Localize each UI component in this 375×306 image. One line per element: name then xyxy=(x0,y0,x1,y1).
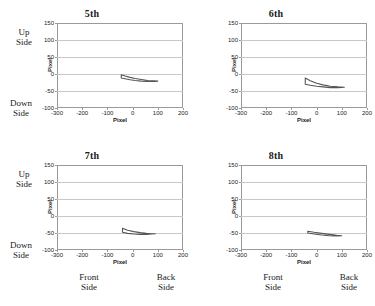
y-tick-label: -50 xyxy=(229,230,238,236)
chart-title-6th: 6th xyxy=(184,8,368,19)
x-axis-title-7th: Pixel xyxy=(57,259,183,265)
y-tick-label: 50 xyxy=(231,196,238,202)
y-tick-label: 100 xyxy=(228,37,238,43)
x-tick-mark xyxy=(57,250,58,252)
front-side-line1: Front xyxy=(79,272,99,282)
x-tick-label: -200 xyxy=(76,252,88,258)
data-curve xyxy=(241,23,367,108)
front-side-line2: Side xyxy=(81,282,97,292)
y-tick-label: 100 xyxy=(228,179,238,185)
down-side-line2: Side xyxy=(13,250,29,260)
y-tick-label: 50 xyxy=(47,196,54,202)
chart-title-8th: 8th xyxy=(184,150,368,161)
up-side-label: Up Side xyxy=(4,27,44,47)
x-tick-mark xyxy=(342,108,343,110)
x-tick-mark xyxy=(266,108,267,110)
y-tick-label: 150 xyxy=(228,20,238,26)
x-tick-label: -100 xyxy=(101,110,113,116)
x-tick-label: -200 xyxy=(260,252,272,258)
x-tick-label: 200 xyxy=(362,110,372,116)
plot-area-7th: Pixel Pixel -100-50050100150-300-200-100… xyxy=(57,165,183,250)
x-tick-mark xyxy=(107,250,108,252)
y-tick-label: 150 xyxy=(228,162,238,168)
x-tick-mark xyxy=(82,250,83,252)
x-tick-mark xyxy=(291,250,292,252)
y-tick-label: 0 xyxy=(235,71,238,77)
x-tick-mark xyxy=(241,108,242,110)
up-side-line1: Up xyxy=(19,169,30,179)
x-tick-label: 0 xyxy=(315,110,318,116)
x-tick-mark xyxy=(367,250,368,252)
x-tick-label: -300 xyxy=(51,252,63,258)
x-axis-title-5th: Pixel xyxy=(57,117,183,123)
up-side-line2: Side xyxy=(16,179,32,189)
up-side-line1: Up xyxy=(19,27,30,37)
x-axis-title-6th: Pixel xyxy=(241,117,367,123)
data-curve xyxy=(57,23,183,108)
x-axis-title-8th: Pixel xyxy=(241,259,367,265)
x-tick-mark xyxy=(158,108,159,110)
data-curve xyxy=(57,165,183,250)
x-tick-label: 0 xyxy=(131,110,134,116)
back-side-line2: Side xyxy=(158,282,174,292)
back-side-line2: Side xyxy=(341,282,357,292)
down-side-label: Down Side xyxy=(1,240,41,260)
x-tick-mark xyxy=(57,108,58,110)
x-tick-label: -300 xyxy=(51,110,63,116)
chart-title-7th: 7th xyxy=(0,150,184,161)
down-side-label: Down Side xyxy=(1,98,41,118)
y-tick-label: -50 xyxy=(45,230,54,236)
up-side-label: Up Side xyxy=(4,169,44,189)
y-tick-label: 150 xyxy=(44,20,54,26)
y-tick-label: 50 xyxy=(231,54,238,60)
plot-area-8th: Pixel Pixel -100-50050100150-300-200-100… xyxy=(241,165,367,250)
back-side-line1: Back xyxy=(157,272,176,282)
x-tick-label: 100 xyxy=(337,110,347,116)
x-tick-label: 100 xyxy=(153,252,163,258)
x-tick-label: -100 xyxy=(101,252,113,258)
x-tick-label: 0 xyxy=(131,252,134,258)
front-side-label-left: Front Side xyxy=(63,272,115,292)
x-tick-mark xyxy=(317,250,318,252)
x-tick-label: 100 xyxy=(153,110,163,116)
x-tick-mark xyxy=(107,108,108,110)
x-tick-label: -200 xyxy=(76,110,88,116)
x-tick-mark xyxy=(133,108,134,110)
y-tick-label: -50 xyxy=(229,88,238,94)
down-side-line1: Down xyxy=(10,98,32,108)
y-tick-label: 50 xyxy=(47,54,54,60)
y-tick-label: 0 xyxy=(235,213,238,219)
front-side-line1: Front xyxy=(263,272,283,282)
x-tick-mark xyxy=(317,108,318,110)
x-tick-mark xyxy=(291,108,292,110)
back-side-label-right: Back Side xyxy=(323,272,375,292)
data-curve xyxy=(241,165,367,250)
plot-area-5th: Pixel Pixel -100-50050100150-300-200-100… xyxy=(57,23,183,108)
plot-area-6th: Pixel Pixel -100-50050100150-300-200-100… xyxy=(241,23,367,108)
x-tick-mark xyxy=(342,250,343,252)
x-tick-label: -100 xyxy=(285,252,297,258)
down-side-line1: Down xyxy=(10,240,32,250)
front-side-label-right: Front Side xyxy=(247,272,299,292)
x-tick-label: 0 xyxy=(315,252,318,258)
y-tick-label: 0 xyxy=(51,71,54,77)
y-tick-label: 0 xyxy=(51,213,54,219)
y-tick-label: 100 xyxy=(44,37,54,43)
x-tick-label: 200 xyxy=(362,252,372,258)
chart-title-5th: 5th xyxy=(0,8,184,19)
x-tick-mark xyxy=(82,108,83,110)
y-tick-label: 150 xyxy=(44,162,54,168)
y-tick-label: 100 xyxy=(44,179,54,185)
x-tick-label: -300 xyxy=(235,110,247,116)
x-tick-mark xyxy=(241,250,242,252)
chart-cell-5th: Up Side Down Side 5th Pixel Pixel -100-5… xyxy=(0,0,184,145)
up-side-line2: Side xyxy=(16,37,32,47)
y-tick-label: -50 xyxy=(45,88,54,94)
x-tick-label: -300 xyxy=(235,252,247,258)
x-tick-label: -100 xyxy=(285,110,297,116)
back-side-label-left: Back Side xyxy=(140,272,192,292)
front-side-line2: Side xyxy=(265,282,281,292)
x-tick-label: -200 xyxy=(260,110,272,116)
x-tick-mark xyxy=(367,108,368,110)
